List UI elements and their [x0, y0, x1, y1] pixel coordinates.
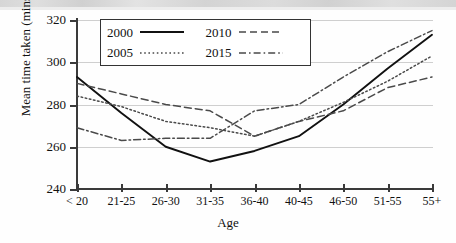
- y-axis-tick-label: 260: [0, 140, 66, 153]
- legend-item-2010[interactable]: 2010: [206, 26, 305, 39]
- legend-label: 2005: [107, 46, 133, 59]
- x-axis-tick-label: 31-35: [196, 194, 224, 209]
- x-axis-tick-label: 26-30: [152, 194, 180, 209]
- legend-swatch-dashdot: [239, 48, 283, 58]
- y-axis-tick-label-wrap: 260: [0, 140, 66, 153]
- legend-item-2015[interactable]: 2015: [206, 46, 305, 59]
- y-axis-tick-label-wrap: 240: [0, 182, 66, 195]
- legend-label: 2000: [107, 26, 133, 39]
- y-axis-tick-label: 320: [0, 13, 66, 26]
- x-axis-tick-label: 21-25: [107, 194, 135, 209]
- legend-item-2005[interactable]: 2005: [107, 46, 206, 59]
- y-axis-tick-label: 300: [0, 55, 66, 68]
- legend-swatch-solid: [140, 27, 184, 37]
- x-axis-title: Age: [0, 215, 456, 231]
- x-axis-tick-label: 40-45: [285, 194, 313, 209]
- scan-artifact-band-secondary: [0, 7, 456, 10]
- y-axis-tick-label: 280: [0, 98, 66, 111]
- y-axis-tick-label: 240: [0, 182, 66, 195]
- y-axis-tick-label-wrap: 280: [0, 98, 66, 111]
- legend-swatch-dashed: [239, 27, 283, 37]
- scan-artifact-band: [0, 0, 456, 7]
- x-axis-tick-label: 46-50: [329, 194, 357, 209]
- legend-item-2000[interactable]: 2000: [107, 26, 206, 39]
- legend-swatch-dotted: [140, 48, 184, 58]
- x-axis-tick-label: 36-40: [241, 194, 269, 209]
- legend-label: 2015: [206, 46, 232, 59]
- y-axis-tick-label-wrap: 320: [0, 13, 66, 26]
- x-axis-tick-label: < 20: [66, 194, 88, 209]
- x-axis-tick-label: 51-55: [374, 194, 402, 209]
- legend-label: 2010: [206, 26, 232, 39]
- chart-legend: 2000201020052015: [100, 19, 311, 66]
- y-axis-tick-label-wrap: 300: [0, 55, 66, 68]
- chart-figure: Mean time taken (mins) 240260280300320 <…: [0, 0, 456, 243]
- x-axis-tick-label: 55+: [423, 194, 442, 209]
